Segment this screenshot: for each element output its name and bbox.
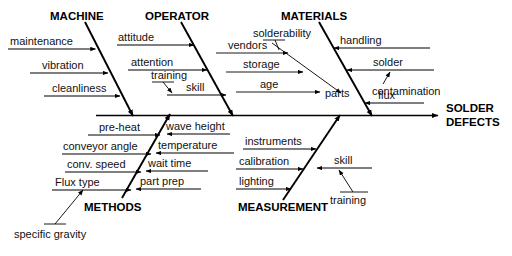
cause-label-skill-operator: skill — [186, 81, 204, 93]
cause-label-maintenance: maintenance — [10, 35, 73, 47]
cause-label-cleanliness: cleanliness — [52, 82, 107, 94]
subcause-label-training-operator: training — [151, 69, 187, 81]
subcause-arrow-specific-gravity — [55, 190, 83, 224]
cause-label-flux: flux — [378, 89, 396, 101]
cause-label-flux-type: Flux type — [55, 176, 100, 188]
cause-label-instruments: instruments — [245, 135, 302, 147]
cause-label-skill-measurement: skill — [334, 154, 352, 166]
cause-label-calibration: calibration — [239, 155, 289, 167]
cause-label-lighting: lighting — [239, 175, 274, 187]
cause-label-temperature: temperature — [158, 139, 217, 151]
cause-label-parts: parts — [325, 87, 350, 99]
bone-operator — [181, 22, 233, 116]
cause-label-preheat: pre-heat — [99, 121, 140, 133]
category-label-materials: MATERIALS — [281, 10, 348, 22]
effect-label-line2: DEFECTS — [446, 116, 500, 128]
subcause-label-solderability: solderability — [253, 27, 312, 39]
subbone-parts — [272, 43, 341, 93]
cause-label-vibration: vibration — [42, 59, 84, 71]
bone-measurement — [283, 115, 340, 200]
fishbone-diagram: SOLDER DEFECTS MACHINE maintenance vibra… — [0, 0, 512, 256]
cause-label-conv-speed: conv. speed — [67, 158, 126, 170]
effect-label-line1: SOLDER — [446, 102, 495, 114]
subcause-label-training-measurement: training — [330, 194, 366, 206]
fishbone-diagram-canvas: SOLDER DEFECTS MACHINE maintenance vibra… — [0, 0, 512, 256]
cause-label-wave-height: wave height — [165, 120, 225, 132]
subcause-label-storage: storage — [243, 58, 280, 70]
category-label-machine: MACHINE — [50, 10, 104, 22]
subcause-label-vendors: vendors — [228, 39, 268, 51]
subcause-arrow-contamination — [383, 72, 390, 84]
subcause-arrow-solderability — [275, 40, 279, 50]
subcause-label-age: age — [260, 78, 278, 90]
cause-label-conveyor-angle: conveyor angle — [63, 140, 138, 152]
category-label-methods: METHODS — [84, 201, 142, 213]
category-label-operator: OPERATOR — [145, 10, 210, 22]
cause-label-handling: handling — [340, 34, 382, 46]
cause-label-solder: solder — [373, 56, 403, 68]
cause-label-part-prep: part prep — [140, 175, 184, 187]
subcause-arrow-training-measurement — [339, 170, 353, 192]
cause-label-attitude: attitude — [118, 31, 154, 43]
category-label-measurement: MEASUREMENT — [238, 201, 328, 213]
cause-label-attention: attention — [131, 56, 173, 68]
subcause-arrow-training-operator — [163, 82, 172, 93]
cause-label-wait-time: wait time — [147, 157, 191, 169]
subcause-label-specific-gravity: specific gravity — [14, 228, 87, 240]
